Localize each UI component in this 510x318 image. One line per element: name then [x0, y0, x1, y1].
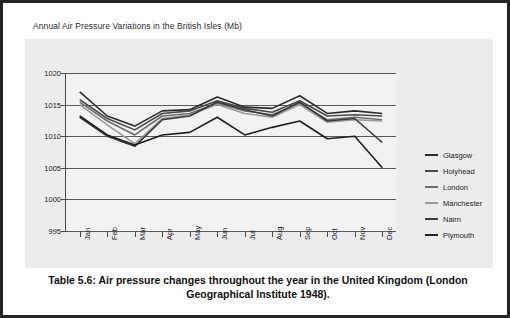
x-tick-mark: [190, 231, 191, 237]
legend-item-plymouth[interactable]: Plymouth: [425, 227, 510, 243]
series-line-plymouth: [80, 116, 383, 168]
legend-item-nairn[interactable]: Nairn: [425, 211, 510, 227]
y-tick-label: 995: [48, 227, 61, 236]
legend-label: Holyhead: [443, 167, 475, 176]
y-tick-label: 1010: [44, 132, 61, 141]
y-tick-label: 1005: [44, 163, 61, 172]
legend-item-holyhead[interactable]: Holyhead: [425, 163, 510, 179]
y-tick-label: 1020: [44, 69, 61, 78]
y-tick-label: 1000: [44, 195, 61, 204]
x-tick-mark: [272, 231, 273, 237]
chart-panel: 99510001005101010151020 JanFebMarAprMayJ…: [25, 39, 493, 268]
x-tick-mark: [107, 231, 108, 237]
legend-item-london[interactable]: London: [425, 179, 510, 195]
figure-caption: Table 5.6: Air pressure changes througho…: [29, 273, 487, 301]
legend-swatch-icon: [425, 202, 438, 204]
x-tick-mark: [217, 231, 218, 237]
figure-page: Annual Air Pressure Variations in the Br…: [0, 0, 510, 318]
legend-swatch-icon: [425, 218, 438, 220]
x-tick-label: Jul: [248, 230, 257, 240]
y-tick-label: 1015: [44, 100, 61, 109]
x-tick-mark: [382, 231, 383, 237]
chart-legend: GlasgowHolyheadLondonManchesterNairnPlym…: [425, 147, 510, 243]
legend-label: London: [443, 183, 468, 192]
legend-label: Nairn: [443, 215, 461, 224]
x-tick-mark: [300, 231, 301, 237]
legend-label: Manchester: [443, 199, 482, 208]
series-lines: [66, 73, 396, 231]
legend-swatch-icon: [425, 170, 438, 172]
legend-label: Plymouth: [443, 231, 474, 240]
series-line-london: [80, 102, 383, 135]
x-tick-mark: [355, 231, 356, 237]
legend-item-manchester[interactable]: Manchester: [425, 195, 510, 211]
legend-swatch-icon: [425, 234, 438, 236]
legend-swatch-icon: [425, 186, 438, 188]
chart-title: Annual Air Pressure Variations in the Br…: [33, 21, 242, 31]
x-tick-mark: [80, 231, 81, 237]
legend-swatch-icon: [425, 154, 438, 156]
legend-item-glasgow[interactable]: Glasgow: [425, 147, 510, 163]
x-tick-mark: [135, 231, 136, 237]
plot-area: 99510001005101010151020 JanFebMarAprMayJ…: [65, 73, 396, 232]
x-tick-mark: [327, 231, 328, 237]
legend-label: Glasgow: [443, 151, 472, 160]
x-tick-mark: [245, 231, 246, 237]
y-tick-mark: [61, 231, 66, 232]
x-tick-mark: [162, 231, 163, 237]
